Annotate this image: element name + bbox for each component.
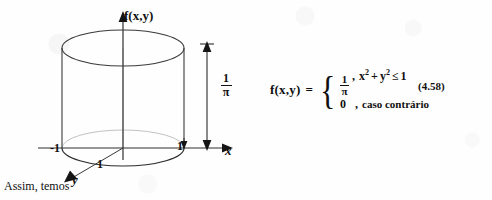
equation-number: (4.58) (418, 80, 445, 92)
case-two-condition-text: caso contrário (362, 98, 429, 110)
case-one-separator: , (352, 69, 355, 84)
case-two-value: 0 (340, 97, 352, 112)
case-two-separator: , (355, 97, 358, 112)
case-one-condition: x2+y2≤1 (359, 68, 406, 84)
equals-sign: = (305, 82, 312, 98)
case-one-denominator: π (342, 87, 348, 96)
height-dimension-label: 1 π (215, 73, 237, 98)
x-axis-label: x (225, 144, 232, 157)
cylinder-figure: f(x,y) x y -1 1 1 1 π Assim, temos (0, 0, 246, 200)
height-dimension-numerator: 1 (215, 73, 237, 84)
case-row-second: 0 , caso contrário (340, 97, 429, 112)
height-dimension-bottom-arrowhead (203, 140, 212, 151)
y-tick-label-positive-one: 1 (97, 158, 103, 170)
vertical-axis-label: f(x,y) (124, 9, 153, 22)
x-tick-label-negative-one: -1 (50, 142, 60, 154)
condition-y-exponent: 2 (386, 68, 390, 77)
piecewise-equation: f(x,y) = { 1 π , x2+y2≤1 0 (270, 68, 429, 112)
piecewise-cases: 1 π , x2+y2≤1 0 , caso contrário (340, 68, 429, 112)
condition-plus-sign: + (371, 69, 378, 83)
equation-block: f(x,y) = { 1 π , x2+y2≤1 0 (246, 0, 492, 200)
y-axis-label: y (72, 173, 78, 186)
condition-inequality-operator: ≤ (392, 69, 399, 83)
figure-page: f(x,y) x y -1 1 1 1 π Assim, temos f(x,y… (0, 0, 492, 200)
case-one-numerator: 1 (342, 75, 348, 84)
height-dimension-denominator: π (215, 87, 237, 98)
figure-caption: Assim, temos (4, 180, 69, 192)
case-row-first: 1 π , x2+y2≤1 (340, 68, 429, 93)
height-dimension-top-arrowhead (203, 41, 212, 52)
cylinder-diagram-svg (0, 0, 246, 200)
condition-right-value: 1 (401, 69, 407, 83)
equation-left-hand-side: f(x,y) (270, 82, 300, 98)
x-tick-label-positive-one: 1 (177, 140, 183, 152)
condition-x-exponent: 2 (365, 68, 369, 77)
case-one-value-fraction: 1 π (340, 75, 349, 96)
